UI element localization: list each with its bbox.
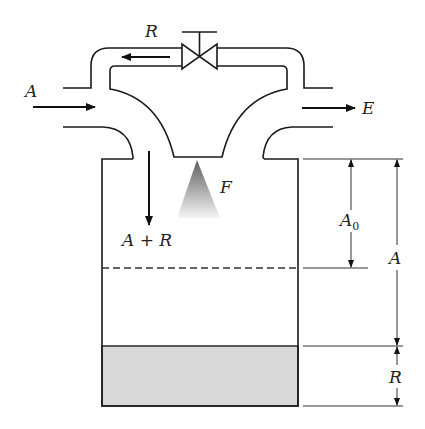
recycle-label: R <box>144 21 158 41</box>
dim-a0-label: A0 <box>338 210 359 233</box>
recycle-pipe-outer <box>63 48 333 88</box>
outlet-lower-wall <box>263 127 333 159</box>
valve-icon[interactable] <box>182 32 217 69</box>
dim-a-label: A <box>387 248 401 268</box>
dim-r-label: R <box>388 367 402 387</box>
tank-inflow-label: A + R <box>120 230 172 250</box>
inlet-lower-wall <box>63 127 133 159</box>
recycle-pipe-inner <box>110 66 287 157</box>
exit-label: E <box>361 98 375 118</box>
spray-label: F <box>219 177 233 197</box>
process-diagram: R A E A + R F A0 A R <box>0 0 425 429</box>
inlet-label: A <box>23 81 37 101</box>
liquid-fill <box>102 346 298 406</box>
spray-cone <box>177 160 220 218</box>
